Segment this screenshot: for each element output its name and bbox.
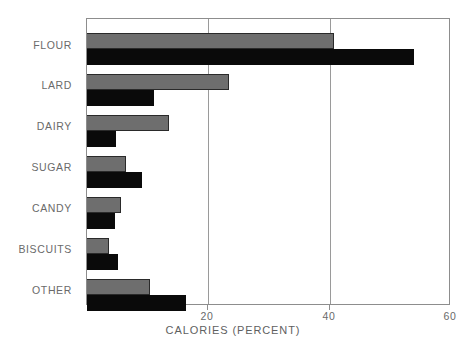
- bar-candy-black: [87, 213, 115, 229]
- tick-label-20: 20: [201, 310, 214, 322]
- tick-label-60: 60: [444, 310, 457, 322]
- category-label-candy: CANDY: [32, 203, 72, 214]
- bar-biscuits-gray: [87, 238, 109, 254]
- category-label-lard: LARD: [41, 80, 72, 91]
- plot-area: [86, 18, 450, 305]
- bar-lard-black: [87, 90, 154, 106]
- bar-lard-gray: [87, 74, 229, 90]
- bar-sugar-gray: [87, 156, 126, 172]
- bar-dairy-black: [87, 131, 116, 147]
- bar-dairy-gray: [87, 115, 169, 131]
- category-label-biscuits: BISCUITS: [18, 244, 72, 255]
- x-axis-title: CALORIES (PERCENT): [0, 324, 466, 336]
- category-label-sugar: SUGAR: [31, 162, 72, 173]
- category-label-flour: FLOUR: [33, 40, 72, 51]
- category-label-dairy: DAIRY: [37, 121, 72, 132]
- bar-flour-gray: [87, 33, 334, 49]
- category-axis-labels: FLOUR LARD DAIRY SUGAR CANDY BISCUITS OT…: [0, 18, 82, 305]
- bar-biscuits-black: [87, 254, 118, 270]
- bar-candy-gray: [87, 197, 121, 213]
- bar-other-black: [87, 295, 186, 311]
- bar-other-gray: [87, 279, 150, 295]
- bar-chart: FLOUR LARD DAIRY SUGAR CANDY BISCUITS OT…: [0, 0, 466, 347]
- bar-sugar-black: [87, 172, 142, 188]
- bar-flour-black: [87, 49, 414, 65]
- category-label-other: OTHER: [32, 285, 72, 296]
- tick-label-40: 40: [323, 310, 336, 322]
